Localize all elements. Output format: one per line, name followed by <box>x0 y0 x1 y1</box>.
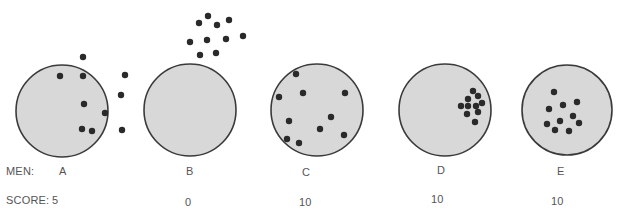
shot-dot <box>223 36 229 42</box>
man-label-c: C <box>302 166 310 178</box>
shot-dot <box>317 126 323 132</box>
shot-dot <box>204 37 210 43</box>
shot-dot <box>122 72 128 78</box>
target-circle <box>144 64 236 156</box>
shot-dot <box>544 121 550 127</box>
man-label-a: A <box>59 165 67 177</box>
score-e: 10 <box>551 195 564 207</box>
shot-dot <box>464 111 470 117</box>
shot-dot <box>293 71 299 77</box>
shot-dot <box>328 114 334 120</box>
shot-dot <box>472 119 478 125</box>
target-c <box>271 64 363 156</box>
shot-dot <box>240 33 246 39</box>
shot-dot <box>284 136 290 142</box>
shot-dot <box>296 140 302 146</box>
man-label-e: E <box>557 165 565 177</box>
score-c: 10 <box>299 196 312 208</box>
score-b: 0 <box>185 196 191 208</box>
shot-dot <box>479 100 485 106</box>
shot-dot <box>576 120 582 126</box>
score-row-label: SCORE: <box>6 194 49 206</box>
shot-dot <box>57 73 63 79</box>
shot-dot <box>119 127 125 133</box>
shot-dot <box>102 110 108 116</box>
shot-dot <box>276 94 282 100</box>
men-row-label: MEN: <box>6 165 34 177</box>
shot-dot <box>570 113 576 119</box>
target-b <box>144 13 246 156</box>
shot-dot <box>197 52 203 58</box>
shot-dot <box>80 54 86 60</box>
shot-dot <box>475 93 481 99</box>
shot-dot <box>551 89 557 95</box>
shot-dot <box>89 128 95 134</box>
shot-dot <box>214 22 220 28</box>
shot-dot <box>226 17 232 23</box>
shot-dot <box>465 96 471 102</box>
targets-diagram <box>0 0 626 214</box>
shot-dot <box>557 118 563 124</box>
target-d <box>399 64 491 156</box>
target-circle <box>271 64 363 156</box>
shot-dot <box>213 50 219 56</box>
shot-dot <box>79 126 85 132</box>
shot-dot <box>300 90 306 96</box>
shot-dot <box>187 39 193 45</box>
man-label-b: B <box>186 165 194 177</box>
shot-dot <box>473 103 479 109</box>
shot-dot <box>196 20 202 26</box>
shot-dot <box>470 88 476 94</box>
shot-dot <box>560 102 566 108</box>
shot-dot <box>552 127 558 133</box>
target-e <box>522 65 612 155</box>
shot-dot <box>546 106 552 112</box>
shot-dot <box>341 132 347 138</box>
shot-dot <box>342 90 348 96</box>
man-label-d: D <box>437 164 445 176</box>
shot-dot <box>458 103 464 109</box>
shot-dot <box>205 13 211 19</box>
shot-dot <box>574 99 580 105</box>
shot-dot <box>465 103 471 109</box>
target-circle <box>16 65 108 157</box>
score-d: 10 <box>431 193 444 205</box>
target-a <box>16 54 128 157</box>
shot-dot <box>81 101 87 107</box>
shot-dot <box>80 73 86 79</box>
shot-dot <box>286 118 292 124</box>
shot-dot <box>566 128 572 134</box>
score-a: 5 <box>52 194 58 206</box>
shot-dot <box>475 109 481 115</box>
shot-dot <box>118 92 124 98</box>
target-circle <box>522 65 612 155</box>
